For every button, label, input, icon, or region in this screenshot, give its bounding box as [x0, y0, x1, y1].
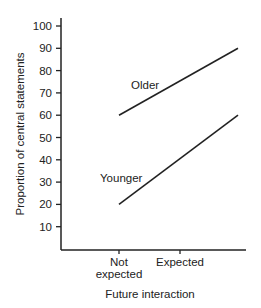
y-tick-label: 100: [33, 20, 52, 32]
y-tick-label: 70: [39, 87, 52, 99]
y-tick-label: 90: [39, 42, 52, 54]
series-label-older: Older: [131, 79, 159, 91]
y-tick-label: 60: [39, 109, 52, 121]
y-tick-label: 80: [39, 65, 52, 77]
y-tick-label: 50: [39, 132, 52, 144]
x-tick-label: Expected: [156, 256, 204, 268]
x-axis-ticks: NotexpectedExpected: [96, 250, 204, 280]
y-tick-label: 30: [39, 176, 52, 188]
y-tick-label: 40: [39, 154, 52, 166]
series-label-younger: Younger: [100, 172, 143, 184]
x-tick-label: expected: [96, 268, 143, 280]
series-line-younger: [119, 115, 238, 204]
x-axis-title: Future interaction: [105, 288, 195, 300]
y-axis-title: Proportion of central statements: [14, 52, 26, 215]
x-tick-label: Not: [110, 256, 129, 268]
y-tick-label: 10: [39, 221, 52, 233]
y-tick-label: 20: [39, 198, 52, 210]
y-axis-ticks: 102030405060708090100: [33, 20, 61, 233]
series-lines: OlderYounger: [100, 48, 238, 204]
chart: 102030405060708090100 NotexpectedExpecte…: [0, 0, 261, 308]
